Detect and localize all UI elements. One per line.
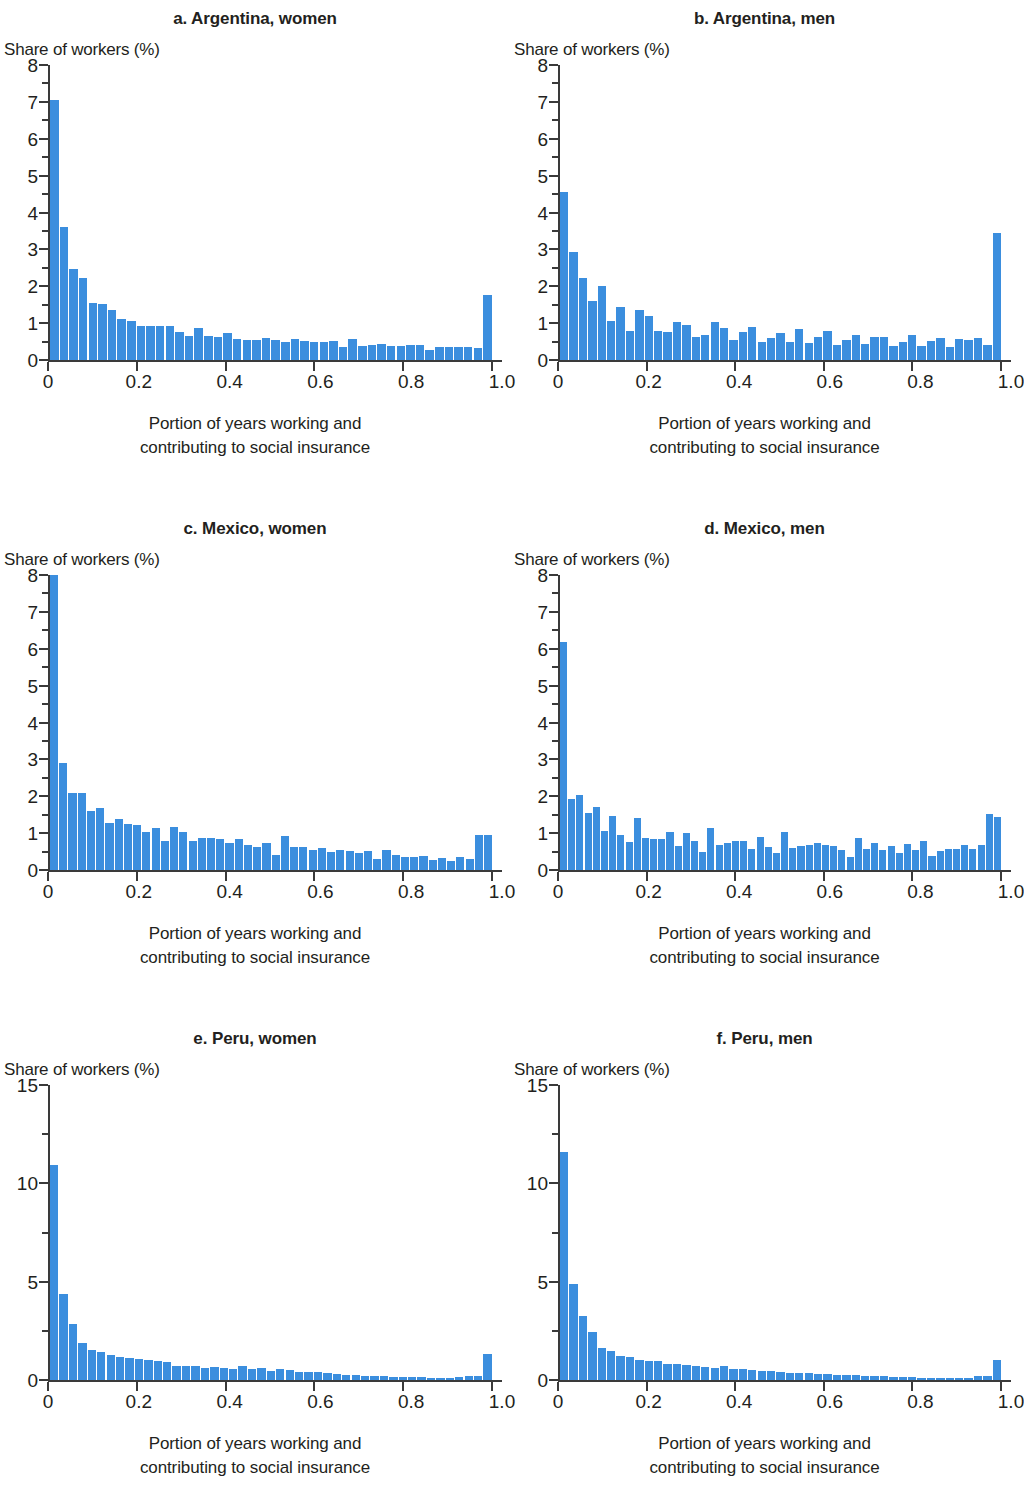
- y-tick-major: [39, 138, 48, 140]
- histogram-bar: [59, 763, 67, 870]
- histogram-bar: [253, 847, 261, 870]
- y-tick-minor: [42, 666, 48, 668]
- plot-wrapper: 01234567800.20.40.60.81.0: [514, 575, 1019, 885]
- histogram-bar: [438, 858, 446, 870]
- y-tick-label: 7: [537, 92, 548, 111]
- x-tick-major: [734, 362, 736, 371]
- bars-container: [560, 1085, 1001, 1380]
- histogram-bar: [179, 832, 187, 870]
- x-tick-major: [47, 362, 49, 371]
- histogram-bar: [748, 849, 755, 870]
- histogram-bar: [593, 807, 600, 870]
- histogram-bar: [170, 827, 178, 871]
- histogram-bar: [238, 1366, 246, 1380]
- histogram-bar: [235, 839, 243, 870]
- y-tick-minor: [42, 193, 48, 195]
- histogram-bar: [720, 328, 728, 360]
- histogram-bar: [994, 817, 1001, 870]
- y-tick-minor: [42, 119, 48, 121]
- histogram-bar: [262, 843, 270, 870]
- y-tick-minor: [552, 304, 558, 306]
- y-tick-minor: [42, 703, 48, 705]
- histogram-bar: [364, 851, 372, 870]
- y-tick-label: 8: [27, 566, 38, 585]
- y-tick-label: 5: [27, 676, 38, 695]
- y-tick-minor: [42, 814, 48, 816]
- histogram-bar: [729, 1369, 737, 1380]
- histogram-bar: [634, 818, 641, 870]
- histogram-bar: [588, 301, 596, 360]
- histogram-bar: [805, 1373, 813, 1380]
- histogram-bar: [223, 333, 232, 360]
- y-tick-major: [39, 359, 48, 361]
- histogram-bar: [953, 849, 960, 870]
- y-tick-label: 0: [537, 861, 548, 880]
- y-tick-minor: [42, 341, 48, 343]
- histogram-bar: [348, 339, 357, 360]
- x-tick-major: [1000, 362, 1002, 371]
- x-tick-labels: 00.20.40.60.81.0: [558, 1391, 1011, 1419]
- histogram-bar: [429, 860, 437, 870]
- histogram-bar: [701, 335, 709, 360]
- panel-title: a. Argentina, women: [0, 0, 510, 33]
- histogram-bar: [626, 842, 633, 870]
- x-axis-caption-line1: Portion of years working and: [510, 1432, 1019, 1456]
- y-tick-label: 4: [537, 203, 548, 222]
- y-tick-label: 2: [27, 277, 38, 296]
- histogram-bar: [560, 642, 567, 870]
- histogram-bar: [68, 793, 76, 870]
- y-tick-major: [39, 574, 48, 576]
- x-tick-label: 1.0: [998, 881, 1024, 903]
- histogram-bar: [233, 339, 242, 360]
- y-tick-major: [549, 611, 558, 613]
- histogram-bar: [194, 328, 203, 360]
- histogram-bar: [993, 233, 1001, 360]
- histogram-bar: [435, 347, 444, 360]
- histogram-bar: [483, 1354, 491, 1380]
- x-axis-caption-line2: contributing to social insurance: [510, 1456, 1019, 1480]
- panel-d: d. Mexico, menShare of workers (%)012345…: [510, 510, 1019, 1020]
- plot-wrapper: 01234567800.20.40.60.81.0: [4, 65, 510, 375]
- x-axis-caption-line1: Portion of years working and: [0, 412, 510, 436]
- histogram-bar: [327, 852, 335, 870]
- histogram-bar: [823, 331, 831, 360]
- histogram-bar: [135, 1359, 143, 1380]
- histogram-bar: [607, 1351, 615, 1380]
- histogram-bar: [291, 339, 300, 360]
- y-tick-major: [549, 248, 558, 250]
- panel-e: e. Peru, womenShare of workers (%)051015…: [0, 1020, 510, 1509]
- y-tick-major: [39, 1084, 48, 1086]
- histogram-bar: [650, 839, 657, 870]
- y-tick-minor: [552, 629, 558, 631]
- histogram-bar: [98, 304, 107, 360]
- histogram-bar: [699, 852, 706, 870]
- x-tick-major: [646, 872, 648, 881]
- x-tick-major: [557, 872, 559, 881]
- histogram-bar: [560, 192, 568, 360]
- x-tick-major: [823, 872, 825, 881]
- histogram-bar: [642, 838, 649, 870]
- y-tick-label: 15: [17, 1076, 38, 1095]
- y-tick-minor: [552, 703, 558, 705]
- histogram-bar: [166, 326, 175, 360]
- histogram-bar: [355, 853, 363, 870]
- x-tick-label: 0.4: [216, 1391, 242, 1413]
- histogram-bar: [917, 346, 925, 360]
- histogram-bar: [329, 341, 338, 360]
- histogram-bar: [692, 1366, 700, 1380]
- histogram-bar: [257, 1368, 265, 1380]
- histogram-bar: [739, 1369, 747, 1380]
- y-tick-label: 6: [537, 129, 548, 148]
- histogram-bar: [295, 1372, 303, 1380]
- histogram-bar: [248, 1369, 256, 1380]
- x-tick-major: [911, 362, 913, 371]
- x-tick-major: [313, 1382, 315, 1391]
- histogram-bar: [663, 1364, 671, 1380]
- y-tick-minor: [552, 592, 558, 594]
- x-axis-caption-line2: contributing to social insurance: [510, 436, 1019, 460]
- x-tick-label: 0.6: [307, 881, 333, 903]
- histogram-bar: [912, 850, 919, 870]
- histogram-bar: [447, 861, 455, 870]
- histogram-bar: [175, 332, 184, 360]
- x-axis-caption-line1: Portion of years working and: [0, 1432, 510, 1456]
